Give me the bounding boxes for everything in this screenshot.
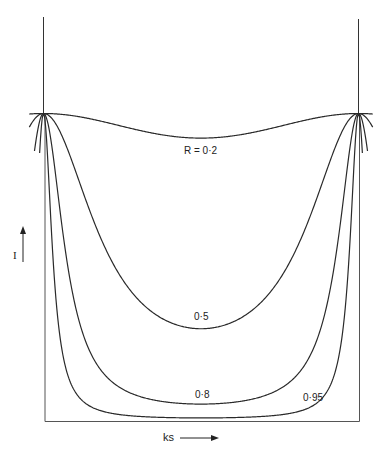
curve-label-r02: R = 0·2 [184,145,217,156]
airy-function-chart [0,0,387,462]
x-axis-label: ks [163,431,174,443]
curve-r-095 [40,114,363,418]
curve-label-r05: 0·5 [194,311,208,322]
curve-label-r08: 0·8 [195,389,209,400]
frame-box [45,113,360,422]
y-axis-label: I [13,249,17,261]
curves-group [29,114,372,418]
curve-r-08 [34,114,367,405]
curve-r-02 [29,114,372,139]
x-axis-arrow [180,435,219,441]
y-axis-arrow [20,226,26,262]
curve-label-r095: 0·95 [303,392,323,403]
